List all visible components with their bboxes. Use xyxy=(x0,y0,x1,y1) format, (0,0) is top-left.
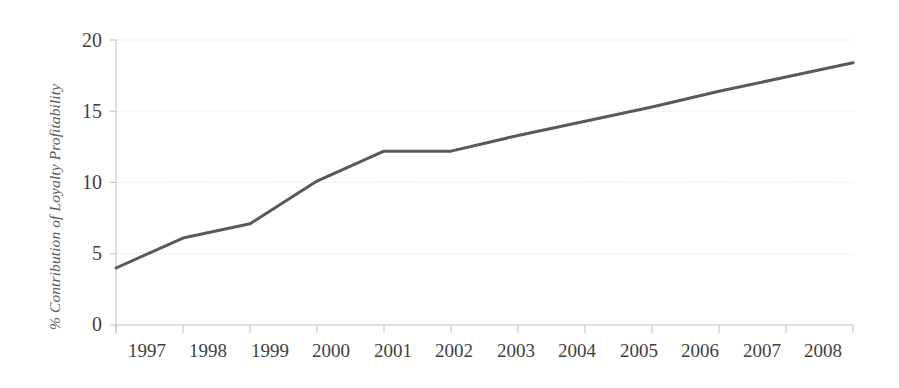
plot-area xyxy=(0,0,899,388)
line-chart: % Contribution of Loyalty Profitability … xyxy=(0,0,899,388)
gridlines xyxy=(116,40,853,333)
axis-lines xyxy=(110,40,853,333)
data-series-line xyxy=(116,63,853,268)
